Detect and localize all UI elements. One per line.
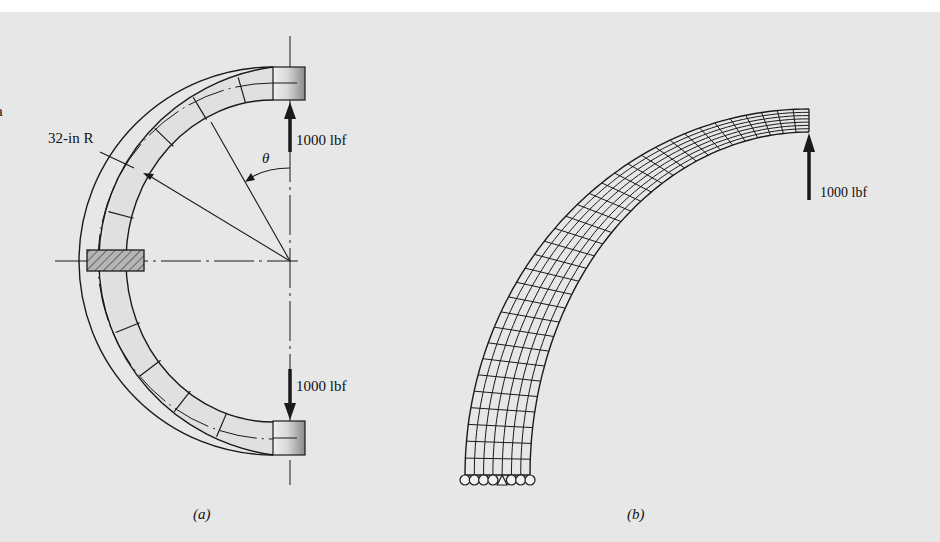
load-label-mesh: 1000 lbf bbox=[820, 185, 867, 200]
radius-label: 32-in R bbox=[48, 130, 93, 146]
theta-label: θ bbox=[262, 150, 270, 166]
figure-b-caption: (b) bbox=[627, 506, 645, 523]
figure-canvas: a (a) 32-in R θ 1000 lbf 1000 lbf (b) 10… bbox=[0, 0, 940, 542]
roller-support-icon bbox=[525, 475, 535, 485]
roller-support-icon bbox=[516, 475, 526, 485]
edge-text-fragment: a bbox=[0, 103, 3, 119]
figure-a-caption: (a) bbox=[193, 506, 211, 523]
roller-support-icon bbox=[506, 475, 516, 485]
hatched-cross-section bbox=[87, 250, 144, 271]
roller-support-icon bbox=[460, 475, 470, 485]
figure-panel-background bbox=[0, 12, 940, 542]
roller-support-icon bbox=[479, 475, 489, 485]
roller-support-icon bbox=[488, 475, 498, 485]
load-label-top: 1000 lbf bbox=[296, 132, 346, 148]
load-label-bottom: 1000 lbf bbox=[296, 378, 346, 394]
roller-support-icon bbox=[469, 475, 479, 485]
